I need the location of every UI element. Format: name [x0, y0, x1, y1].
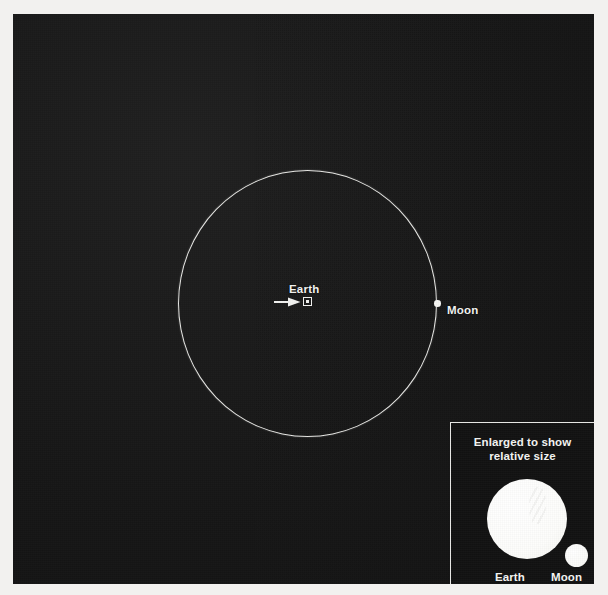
- earth-marker-center-dot: [306, 300, 310, 304]
- inset-title-line-2: relative size: [451, 450, 594, 464]
- moon-marker-icon: [434, 300, 441, 307]
- earth-pointer-arrow: [274, 297, 301, 307]
- inset-title: Enlarged to show relative size: [451, 436, 594, 463]
- earth-label: Earth: [289, 283, 319, 295]
- inset-earth-label: Earth: [495, 571, 525, 583]
- inset-moon-label: Moon: [551, 571, 582, 583]
- moon-label: Moon: [447, 304, 478, 316]
- inset-moon-sphere: [565, 544, 588, 567]
- inset-title-line-1: Enlarged to show: [451, 436, 594, 450]
- diagram-canvas: Earth Moon Enlarged to show relative siz…: [0, 0, 608, 595]
- relative-size-inset: Enlarged to show relative size Earth Moo…: [450, 422, 594, 584]
- earth-marker-icon: [303, 297, 312, 306]
- space-background-panel: Earth Moon Enlarged to show relative siz…: [13, 14, 594, 584]
- inset-earth-sphere: [487, 479, 567, 559]
